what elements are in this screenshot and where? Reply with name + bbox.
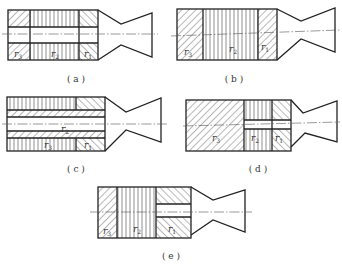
caption-a: ( a ) (67, 74, 85, 84)
central-bore (156, 204, 191, 217)
grain-configurations-figure: r3 r2 r1 ( a ) r3 r2 r1 ( b ) (0, 0, 342, 265)
panel-e: r3 r2 r1 ( e ) (90, 187, 252, 261)
panel-d: r3 r2 r1 ( d ) (183, 100, 340, 174)
nozzle (98, 10, 152, 60)
panel-b: r3 r2 r1 ( b ) (171, 8, 340, 84)
central-bore (8, 27, 98, 43)
zone-r3 (186, 100, 244, 151)
panel-a: r3 r2 r1 ( a ) (2, 10, 158, 84)
caption-b: ( b ) (225, 74, 244, 84)
panel-c: r2 r3 r1 ( c ) (2, 97, 167, 174)
nozzle (191, 187, 245, 235)
zone-r3-bottom (7, 138, 76, 151)
nozzle (291, 100, 337, 147)
zone-r1-top (76, 97, 105, 110)
caption-d: ( d ) (249, 164, 268, 174)
caption-e: ( e ) (162, 251, 180, 261)
nozzle (277, 8, 335, 60)
caption-c: ( c ) (67, 164, 85, 174)
zone-r3-top (7, 97, 76, 110)
zone-r2-top-liner (7, 110, 105, 117)
label-r2: r2 (61, 124, 69, 135)
zone-r2-bottom-liner-2 (80, 131, 105, 138)
